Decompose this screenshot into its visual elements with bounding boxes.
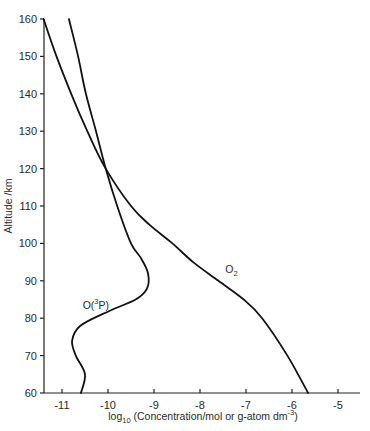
y-tick-label: 60 (25, 387, 37, 399)
chart: 60708090100110120130140150160 -11-10-9-8… (0, 0, 370, 431)
x-axis-title-main: (Concentration/mol or g-atom dm (131, 410, 288, 422)
y-tick-label: 90 (25, 275, 37, 287)
series-label-o-3p-: O(3P) (83, 297, 109, 311)
axes (44, 19, 360, 393)
y-tick-label: 150 (19, 50, 37, 62)
curve-o2 (44, 19, 309, 393)
x-axis-title-sub: 10 (122, 416, 130, 425)
x-tick-label: -5 (333, 399, 343, 411)
x-axis-title-sup: -3 (288, 408, 295, 417)
y-tick-label: 160 (19, 13, 37, 25)
y-ticks: 60708090100110120130140150160 (19, 13, 44, 399)
x-axis-title-post: ) (294, 410, 298, 422)
y-tick-label: 120 (19, 163, 37, 175)
y-tick-label: 100 (19, 237, 37, 249)
y-tick-label: 140 (19, 88, 37, 100)
x-axis-title-log: log (108, 410, 122, 422)
y-tick-label: 110 (19, 200, 37, 212)
x-axis-title: log10 (Concentration/mol or g-atom dm-3) (108, 408, 298, 425)
series-labels: O(3P)O2 (83, 263, 238, 311)
y-axis-title: Altitude /km (2, 178, 14, 233)
x-ticks: -11-10-9-8-7-6-5 (54, 389, 342, 411)
curve-o-3p- (69, 19, 149, 393)
x-tick-label: -11 (54, 399, 69, 411)
curves (44, 19, 309, 393)
y-tick-label: 70 (25, 350, 37, 362)
y-tick-label: 130 (19, 125, 37, 137)
y-tick-label: 80 (25, 312, 37, 324)
series-label-o2: O2 (225, 263, 237, 278)
